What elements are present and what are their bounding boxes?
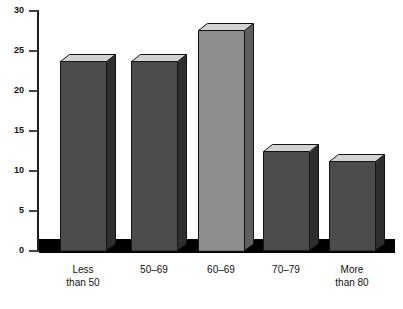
y-axis-tick: [29, 10, 38, 12]
y-axis-tick-label: 15: [0, 126, 24, 135]
x-axis-label: More than 80: [311, 264, 393, 289]
y-axis-tick: [29, 170, 38, 172]
y-axis-tick: [29, 130, 38, 132]
y-axis-tick-label: 0: [0, 246, 24, 255]
bar-outline: [198, 23, 255, 253]
bar-outline: [60, 54, 117, 253]
y-axis-tick-label: 30: [0, 6, 24, 15]
y-axis-tick: [29, 90, 38, 92]
bar-outline: [329, 154, 386, 253]
bar-chart: 051015202530 Less than 5050–6960–6970–79…: [0, 0, 403, 309]
bar-outline: [131, 54, 188, 253]
y-axis-tick-label: 20: [0, 86, 24, 95]
plot-area: 051015202530 Less than 5050–6960–6970–79…: [0, 0, 403, 309]
y-axis-tick: [29, 50, 38, 52]
y-axis-tick-label: 25: [0, 46, 24, 55]
y-axis-tick-label: 5: [0, 206, 24, 215]
y-axis-tick-label: 10: [0, 166, 24, 175]
y-axis-tick: [29, 250, 38, 252]
x-axis-label: Less than 50: [42, 264, 124, 289]
y-axis-tick: [29, 210, 38, 212]
bar-outline: [263, 144, 320, 252]
